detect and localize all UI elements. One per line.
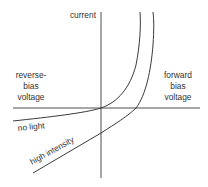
reverse-bias-label: reverse- bias voltage [16, 70, 47, 102]
svg-text:voltage: voltage [17, 92, 44, 102]
svg-text:forward: forward [164, 70, 192, 80]
photodiode-iv-diagram: current reverse- bias voltage forward bi… [0, 0, 208, 187]
svg-text:bias: bias [170, 81, 185, 91]
no-light-label: no light [17, 120, 46, 133]
no-light-curve [13, 12, 140, 121]
svg-text:bias: bias [23, 81, 38, 91]
svg-text:reverse-: reverse- [16, 70, 47, 80]
forward-bias-label: forward bias voltage [164, 70, 192, 102]
y-axis-label: current [70, 10, 97, 20]
svg-text:voltage: voltage [164, 92, 191, 102]
